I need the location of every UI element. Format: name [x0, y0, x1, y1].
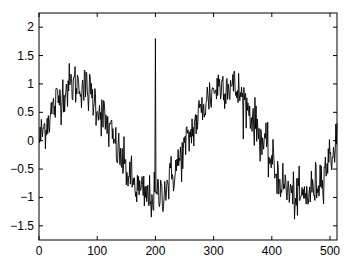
- plot-area: [39, 13, 337, 240]
- line-chart: 0100200300400500 −1.5−1−0.500.511.52: [0, 0, 350, 270]
- y-tick-label: −1: [20, 190, 34, 204]
- y-tick-label: 0.5: [17, 105, 34, 119]
- y-tick-label: 1: [27, 77, 34, 91]
- y-tick-label: −0.5: [10, 162, 34, 176]
- y-tick-label: 0: [27, 134, 34, 148]
- x-tick-label: 400: [262, 244, 282, 258]
- y-tick-label: 2: [27, 20, 34, 34]
- x-tick-label: 100: [87, 244, 107, 258]
- x-tick-label: 300: [204, 244, 224, 258]
- y-tick-label: −1.5: [10, 219, 34, 233]
- x-tick-label: 0: [36, 244, 43, 258]
- y-tick-label: 1.5: [17, 49, 34, 63]
- x-tick-label: 500: [320, 244, 340, 258]
- x-tick-label: 200: [145, 244, 165, 258]
